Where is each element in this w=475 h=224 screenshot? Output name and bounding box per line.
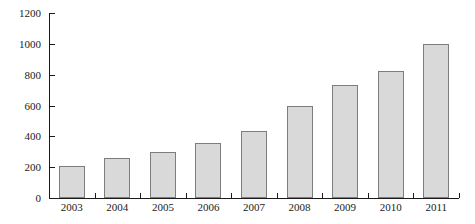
y-tick-0 (50, 198, 55, 199)
x-tick-label-2010: 2010 (380, 201, 402, 213)
x-minor-tick-8 (459, 193, 460, 198)
x-minor-tick-4 (277, 193, 278, 198)
bar-2011 (423, 44, 449, 198)
x-axis-tick-labels: 200320042005200620072008200920102011 (49, 201, 459, 221)
x-tick-label-2011: 2011 (425, 201, 447, 213)
x-tick-label-2004: 2004 (106, 201, 128, 213)
x-axis-line (49, 198, 459, 199)
bar-2008 (287, 106, 313, 199)
y-tick-label-0: 0 (36, 192, 42, 204)
x-tick-label-2009: 2009 (334, 201, 356, 213)
x-minor-tick-0 (95, 193, 96, 198)
y-tick-1000 (50, 44, 55, 45)
bar-2006 (195, 143, 221, 198)
y-tick-label-1000: 1000 (19, 38, 41, 50)
y-tick-200 (50, 167, 55, 168)
y-tick-label-200: 200 (25, 161, 42, 173)
bar-2005 (150, 152, 176, 198)
bar-2009 (332, 85, 358, 198)
x-minor-tick-1 (140, 193, 141, 198)
x-tick-label-2006: 2006 (197, 201, 219, 213)
bar-2004 (104, 158, 130, 198)
bar-2010 (378, 71, 404, 198)
bar-chart: 020040060080010001200 200320042005200620… (0, 0, 475, 224)
y-tick-400 (50, 136, 55, 137)
x-minor-tick-7 (413, 193, 414, 198)
y-tick-label-1200: 1200 (19, 7, 41, 19)
x-tick-label-2007: 2007 (243, 201, 265, 213)
x-tick-label-2008: 2008 (289, 201, 311, 213)
x-tick-label-2005: 2005 (152, 201, 174, 213)
y-tick-label-400: 400 (25, 130, 42, 142)
x-minor-tick-5 (322, 193, 323, 198)
y-tick-600 (50, 106, 55, 107)
y-tick-label-800: 800 (25, 69, 42, 81)
bar-2003 (59, 166, 85, 198)
x-minor-tick-6 (368, 193, 369, 198)
x-minor-tick-3 (231, 193, 232, 198)
plot-area (49, 13, 459, 198)
y-tick-800 (50, 75, 55, 76)
y-tick-1200 (50, 13, 55, 14)
x-minor-tick-2 (186, 193, 187, 198)
y-tick-label-600: 600 (25, 100, 42, 112)
x-tick-label-2003: 2003 (61, 201, 83, 213)
bar-2007 (241, 131, 267, 198)
